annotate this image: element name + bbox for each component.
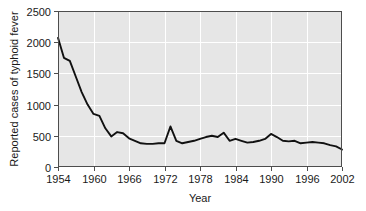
x-tick-label: 1960 (82, 173, 106, 185)
y-axis-ticks: 05001000150020002500 (27, 6, 58, 174)
y-tick-label: 1500 (27, 68, 51, 80)
y-tick-label: 2000 (27, 37, 51, 49)
chart-canvas: 05001000150020002500 1954196019661972197… (0, 0, 366, 211)
x-axis-title: Year (189, 192, 212, 204)
x-tick-label: 1978 (188, 173, 212, 185)
x-axis-ticks: 195419601966197219781984199019962002 (46, 167, 354, 185)
y-tick-label: 0 (45, 162, 51, 174)
x-tick-label: 1966 (117, 173, 141, 185)
y-tick-label: 2500 (27, 6, 51, 18)
x-tick-label: 1954 (46, 173, 70, 185)
y-tick-label: 1000 (27, 100, 51, 112)
y-axis-title: Reported cases of typhoid fever (8, 11, 20, 167)
typhoid-fever-line-chart: 05001000150020002500 1954196019661972197… (0, 0, 366, 211)
x-tick-label: 1984 (224, 173, 248, 185)
x-tick-label: 1972 (153, 173, 177, 185)
x-tick-label: 1990 (259, 173, 283, 185)
x-tick-label: 2002 (330, 173, 354, 185)
y-tick-label: 500 (33, 131, 51, 143)
x-tick-label: 1996 (295, 173, 319, 185)
